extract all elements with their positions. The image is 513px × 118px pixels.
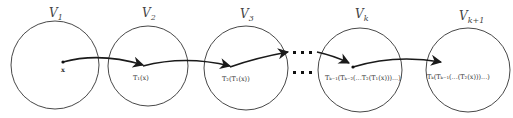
- space-vk1-label: Vk+1: [459, 9, 484, 25]
- arrow-x-to-t1: [63, 58, 143, 65]
- space-v3-label: V3: [240, 7, 254, 23]
- arrow-t2-to-ellipsis: [230, 52, 288, 67]
- space-v3-circle: [204, 26, 288, 110]
- space-v1-label: V1: [49, 6, 63, 22]
- space-vk-circle: [318, 28, 402, 112]
- label-t1: T₁(x): [133, 74, 149, 82]
- label-x: x: [61, 66, 65, 74]
- function-composition-diagram: V1 V2 V3 Vk Vk+1 x T₁(x) T₂(T₁(x)) Tₖ₋₁(…: [0, 0, 513, 118]
- label-tk1: Tₖ₋₁(Tₖ₋₂(...T₂(T₁(x)))...): [325, 74, 401, 82]
- arrow-t1-to-t2: [143, 61, 230, 67]
- point-x: [61, 60, 64, 63]
- space-v2-circle: [108, 26, 188, 106]
- space-v2-label: V2: [142, 6, 156, 22]
- ellipsis-icon: [293, 51, 312, 74]
- space-vk-label: Vk: [355, 7, 369, 23]
- arrow-ellipsis-to-tk1: [317, 52, 349, 63]
- label-tk: Tₖ(Tₖ₋₁(...(T₂(x)))...): [427, 73, 490, 81]
- space-v1-circle: [11, 21, 99, 109]
- label-t2: T₂(T₁(x)): [222, 75, 250, 83]
- point-tk1: [351, 65, 354, 68]
- space-vk1-circle: [426, 28, 510, 112]
- arrow-tk1-to-tk: [353, 59, 441, 67]
